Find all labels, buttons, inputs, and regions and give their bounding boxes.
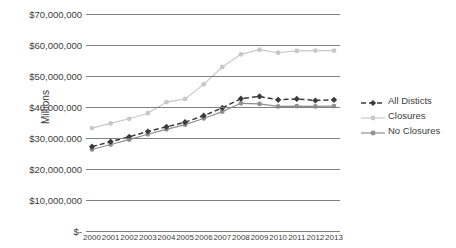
x-tick-label: 2005: [176, 233, 194, 242]
series-line: [92, 103, 334, 149]
gridline: [86, 231, 340, 232]
x-tick-label: 2009: [251, 233, 269, 242]
series-marker: [257, 47, 262, 52]
chart-screenshot: Millions $70,000,000$60,000,000$50,000,0…: [0, 0, 456, 248]
x-tick-label: 2011: [288, 233, 305, 242]
x-tick-label: 2007: [213, 233, 231, 242]
gridline: [86, 14, 340, 15]
legend-marker-icon: [360, 95, 386, 107]
series-marker: [238, 96, 244, 102]
y-tick-label: $40,000,000: [0, 102, 82, 113]
series-marker: [294, 48, 299, 53]
series-marker: [257, 102, 262, 107]
gridline: [86, 45, 340, 46]
y-tick-label: $30,000,000: [0, 133, 82, 144]
series-marker: [256, 93, 262, 99]
legend-label: Closures: [386, 110, 426, 121]
x-tick-label: 2001: [102, 233, 120, 242]
x-axis-tick-labels: 2000200120022003200420052006200720082009…: [86, 233, 340, 248]
legend-label: No Closures: [386, 125, 440, 136]
legend-item[interactable]: Closures: [360, 108, 456, 123]
y-tick-label: $-: [0, 226, 82, 237]
series-marker: [164, 100, 169, 105]
series-marker: [201, 82, 206, 87]
x-tick-label: 2012: [306, 233, 324, 242]
series-marker: [220, 65, 225, 70]
series-marker: [275, 97, 281, 103]
y-tick-label: $60,000,000: [0, 40, 82, 51]
x-tick-label: 2006: [195, 233, 213, 242]
gridline: [86, 76, 340, 77]
series-line: [92, 50, 334, 128]
legend-marker-icon: [360, 110, 386, 122]
gridline: [86, 107, 340, 108]
series-marker: [183, 97, 188, 102]
legend-item[interactable]: No Closures: [360, 123, 456, 138]
series-marker: [312, 97, 318, 103]
y-tick-label: $70,000,000: [0, 9, 82, 20]
series-marker: [332, 48, 337, 53]
plot-area: [86, 14, 340, 231]
series-marker: [108, 121, 113, 126]
y-tick-label: $50,000,000: [0, 71, 82, 82]
series-marker: [127, 116, 132, 121]
y-axis-tick-labels: $70,000,000$60,000,000$50,000,000$40,000…: [0, 0, 82, 248]
gridline: [86, 169, 340, 170]
series-marker: [276, 50, 281, 55]
x-tick-label: 2000: [83, 233, 101, 242]
x-tick-label: 2002: [120, 233, 138, 242]
legend-item[interactable]: All Disticts: [360, 93, 456, 108]
x-tick-label: 2004: [158, 233, 176, 242]
series-marker: [90, 126, 95, 131]
y-tick-label: $20,000,000: [0, 164, 82, 175]
x-tick-label: 2010: [269, 233, 287, 242]
x-tick-label: 2008: [232, 233, 250, 242]
chart-legend: All DistictsClosuresNo Closures: [360, 93, 456, 138]
series-layer: [86, 14, 340, 231]
gridline: [86, 200, 340, 201]
legend-label: All Disticts: [386, 95, 432, 106]
series-marker: [331, 97, 337, 103]
series-marker: [294, 96, 300, 102]
series-marker: [313, 48, 318, 53]
series-marker: [145, 111, 150, 116]
x-tick-label: 2013: [325, 233, 343, 242]
x-tick-label: 2003: [139, 233, 157, 242]
legend-marker-icon: [360, 125, 386, 137]
y-tick-label: $10,000,000: [0, 195, 82, 206]
series-marker: [239, 52, 244, 57]
gridline: [86, 138, 340, 139]
